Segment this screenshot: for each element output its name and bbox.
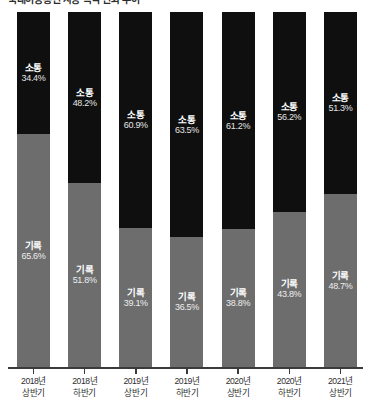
segment-label-value: 51.3% (328, 103, 352, 114)
segment-label-name: 소통 (230, 110, 247, 121)
x-axis-tick (222, 368, 255, 374)
x-axis-label: 2019년상반기 (119, 376, 152, 408)
segment-label-value: 48.7% (328, 281, 352, 292)
segment-label-name: 기록 (127, 287, 144, 298)
x-axis-label: 2018년하반기 (68, 376, 101, 408)
bar-column[interactable]: 소통56.2%기록43.8% (273, 12, 306, 367)
x-axis-label-year: 2020년 (273, 376, 306, 388)
x-axis-label-year: 2019년 (170, 376, 203, 388)
segment-label-value: 34.4% (21, 73, 45, 84)
x-axis-label-half: 상반기 (119, 388, 152, 400)
bar-segment-sotong[interactable]: 소통56.2% (273, 12, 306, 212)
x-axis-label: 2021년상반기 (324, 376, 357, 408)
x-axis-label-year: 2018년 (17, 376, 50, 388)
tick-mark (340, 368, 341, 374)
x-axis-label: 2020년하반기 (273, 376, 306, 408)
bar-segment-sotong[interactable]: 소통63.5% (170, 12, 203, 237)
tick-mark (289, 368, 290, 374)
plot-area: 소통34.4%기록65.6%소통48.2%기록51.8%소통60.9%기록39.… (0, 12, 371, 367)
x-axis-tick (17, 368, 50, 374)
bar-column[interactable]: 소통60.9%기록39.1% (119, 12, 152, 367)
x-axis-tick (273, 368, 306, 374)
segment-label-name: 소통 (178, 114, 195, 125)
x-axis-label: 2018년상반기 (17, 376, 50, 408)
x-axis-label-half: 상반기 (17, 388, 50, 400)
bar-column[interactable]: 소통63.5%기록36.5% (170, 12, 203, 367)
segment-label-name: 기록 (281, 278, 298, 289)
segment-label-name: 기록 (76, 264, 93, 275)
tick-mark (135, 368, 136, 374)
x-axis-labels: 2018년상반기2018년하반기2019년상반기2019년하반기2020년상반기… (17, 376, 357, 408)
segment-label-name: 기록 (178, 291, 195, 302)
bar-segment-girok[interactable]: 기록43.8% (273, 212, 306, 367)
chart-top-caption: 국내이동통신 사용 목적 변화 추이 (8, 0, 258, 6)
segment-label-name: 소통 (127, 109, 144, 120)
x-axis-label: 2019년하반기 (170, 376, 203, 408)
bar-segment-girok[interactable]: 기록48.7% (324, 194, 357, 367)
segment-label-name: 소통 (25, 62, 42, 73)
segment-label-value: 51.8% (73, 275, 97, 286)
stacked-bar-chart: 국내이동통신 사용 목적 변화 추이 소통34.4%기록65.6%소통48.2%… (0, 0, 371, 410)
segment-label-value: 43.8% (277, 289, 301, 300)
segment-label-value: 48.2% (73, 98, 97, 109)
segment-label-value: 38.8% (226, 298, 250, 309)
tick-mark (237, 368, 238, 374)
segment-label-value: 63.5% (175, 125, 199, 136)
x-axis-label-half: 상반기 (222, 388, 255, 400)
x-axis-label-half: 하반기 (68, 388, 101, 400)
bar-segment-girok[interactable]: 기록51.8% (68, 183, 101, 367)
segment-label-name: 기록 (332, 270, 349, 281)
x-axis-ticks (17, 368, 357, 374)
tick-mark (186, 368, 187, 374)
segment-label-value: 36.5% (175, 302, 199, 313)
bar-segment-sotong[interactable]: 소통51.3% (324, 12, 357, 194)
segment-label-name: 소통 (281, 101, 298, 112)
x-axis-label-half: 상반기 (324, 388, 357, 400)
bar-column[interactable]: 소통48.2%기록51.8% (68, 12, 101, 367)
bar-column[interactable]: 소통51.3%기록48.7% (324, 12, 357, 367)
bar-segment-girok[interactable]: 기록65.6% (17, 134, 50, 367)
segment-label-name: 기록 (25, 240, 42, 251)
segment-label-name: 소통 (332, 92, 349, 103)
segment-label-value: 65.6% (21, 251, 45, 262)
x-axis-label: 2020년상반기 (222, 376, 255, 408)
x-axis-label-half: 하반기 (170, 388, 203, 400)
x-axis-label-year: 2021년 (324, 376, 357, 388)
segment-label-value: 61.2% (226, 121, 250, 132)
x-axis-label-year: 2019년 (119, 376, 152, 388)
bar-group: 소통34.4%기록65.6%소통48.2%기록51.8%소통60.9%기록39.… (17, 12, 357, 367)
bar-segment-sotong[interactable]: 소통61.2% (222, 12, 255, 229)
bar-column[interactable]: 소통61.2%기록38.8% (222, 12, 255, 367)
segment-label-value: 56.2% (277, 112, 301, 123)
bar-segment-sotong[interactable]: 소통60.9% (119, 12, 152, 228)
x-axis-tick (68, 368, 101, 374)
x-axis-tick (170, 368, 203, 374)
segment-label-value: 60.9% (124, 120, 148, 131)
x-axis-label-half: 하반기 (273, 388, 306, 400)
x-axis-tick (119, 368, 152, 374)
bar-segment-girok[interactable]: 기록38.8% (222, 229, 255, 367)
x-axis-label-year: 2018년 (68, 376, 101, 388)
bar-segment-girok[interactable]: 기록39.1% (119, 228, 152, 367)
bar-segment-sotong[interactable]: 소통34.4% (17, 12, 50, 134)
x-axis-label-year: 2020년 (222, 376, 255, 388)
x-axis-tick (324, 368, 357, 374)
bar-column[interactable]: 소통34.4%기록65.6% (17, 12, 50, 367)
bar-segment-sotong[interactable]: 소통48.2% (68, 12, 101, 183)
bar-segment-girok[interactable]: 기록36.5% (170, 237, 203, 367)
segment-label-name: 소통 (76, 87, 93, 98)
tick-mark (84, 368, 85, 374)
tick-mark (33, 368, 34, 374)
segment-label-name: 기록 (230, 287, 247, 298)
segment-label-value: 39.1% (124, 298, 148, 309)
